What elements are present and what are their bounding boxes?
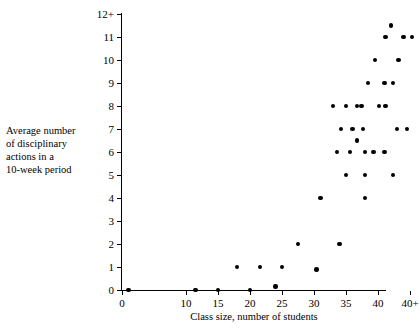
y-axis-line <box>121 13 122 291</box>
y-tick-4 <box>117 198 121 199</box>
y-tick-label-8: 8 <box>109 101 115 112</box>
data-point <box>314 267 318 271</box>
data-point <box>296 242 300 246</box>
x-tick-label-0: 0 <box>119 298 125 309</box>
y-tick-1 <box>117 267 121 268</box>
x-tick-label-30: 30 <box>309 298 320 309</box>
x-tick-label-40: 40 <box>373 298 384 309</box>
x-axis-label: Class size, number of students <box>121 311 387 323</box>
y-tick-label-12+: 12+ <box>97 9 114 20</box>
y-tick-8 <box>117 106 121 107</box>
data-point <box>348 150 352 154</box>
data-point <box>391 81 395 85</box>
data-point <box>248 288 252 292</box>
y-tick-3 <box>117 221 121 222</box>
data-point <box>359 104 363 108</box>
y-tick-6 <box>117 152 121 153</box>
plot-area: 0123456789101112+ 01015202530354040+ <box>121 10 387 292</box>
data-point <box>373 58 377 62</box>
data-point <box>382 150 386 154</box>
x-tick-0 <box>122 291 123 295</box>
x-tick-label-10: 10 <box>181 298 192 309</box>
y-tick-label-6: 6 <box>109 147 115 158</box>
data-point <box>395 127 399 131</box>
data-point <box>355 138 359 142</box>
data-point <box>339 127 343 131</box>
data-point <box>363 196 367 200</box>
data-point <box>344 173 348 177</box>
data-point <box>410 35 414 39</box>
x-tick-40+ <box>410 291 411 295</box>
y-tick-11 <box>117 37 121 38</box>
data-point <box>366 81 370 85</box>
y-tick-12+ <box>117 14 121 15</box>
data-point <box>363 173 367 177</box>
x-tick-25 <box>282 291 283 295</box>
data-point <box>389 23 393 27</box>
data-point <box>382 81 386 85</box>
data-point <box>371 150 375 154</box>
data-point <box>335 150 339 154</box>
x-tick-30 <box>314 291 315 295</box>
y-tick-label-7: 7 <box>109 124 115 135</box>
data-point <box>216 288 220 292</box>
y-tick-label-4: 4 <box>109 193 115 204</box>
y-tick-0 <box>117 290 121 291</box>
data-point <box>337 242 341 246</box>
x-tick-35 <box>346 291 347 295</box>
data-point <box>331 104 335 108</box>
data-point <box>401 35 405 39</box>
data-point <box>344 104 348 108</box>
data-point <box>318 196 322 200</box>
data-point <box>193 288 197 292</box>
data-point <box>350 127 354 131</box>
data-point <box>383 104 387 108</box>
y-axis-label: Average number of disciplinary actions i… <box>6 124 110 176</box>
x-tick-label-25: 25 <box>277 298 288 309</box>
x-tick-label-20: 20 <box>245 298 256 309</box>
data-point <box>126 288 130 292</box>
data-point <box>361 127 365 131</box>
x-tick-label-15: 15 <box>213 298 224 309</box>
y-tick-label-10: 10 <box>103 55 114 66</box>
y-tick-label-3: 3 <box>109 216 115 227</box>
data-point <box>363 150 367 154</box>
y-tick-label-11: 11 <box>103 32 114 43</box>
x-tick-40 <box>378 291 379 295</box>
data-point <box>280 265 284 269</box>
data-point <box>273 284 277 288</box>
y-tick-label-2: 2 <box>109 239 115 250</box>
data-point <box>235 265 239 269</box>
y-tick-label-9: 9 <box>109 78 115 89</box>
x-tick-10 <box>186 291 187 295</box>
y-tick-label-0: 0 <box>109 285 115 296</box>
y-tick-2 <box>117 244 121 245</box>
x-tick-label-40+: 40+ <box>401 298 418 309</box>
x-tick-label-35: 35 <box>341 298 352 309</box>
y-tick-7 <box>117 129 121 130</box>
y-tick-10 <box>117 60 121 61</box>
data-point <box>405 127 409 131</box>
y-tick-label-1: 1 <box>109 262 115 273</box>
data-point <box>396 58 400 62</box>
data-point <box>391 173 395 177</box>
data-point <box>383 35 387 39</box>
data-point <box>258 265 262 269</box>
y-tick-label-5: 5 <box>109 170 115 181</box>
y-tick-9 <box>117 83 121 84</box>
y-tick-5 <box>117 175 121 176</box>
data-point <box>377 104 381 108</box>
